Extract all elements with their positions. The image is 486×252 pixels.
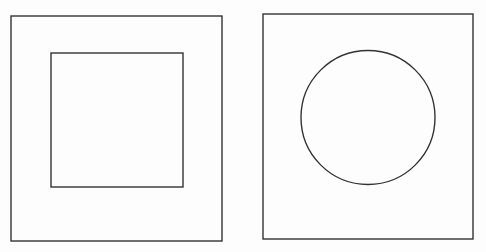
inner-circle (301, 51, 435, 185)
figure-circle-in-square (263, 14, 473, 239)
diagram-canvas (0, 0, 486, 252)
outer-square-left (11, 16, 222, 241)
outer-square-right (263, 14, 473, 239)
figure-square-in-square (11, 16, 222, 241)
inner-square (51, 53, 183, 187)
